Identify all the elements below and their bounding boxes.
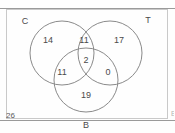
set-label-b: B (83, 120, 89, 130)
region-value-c-only: 14 (43, 35, 53, 45)
venn-figure: C T B 14 11 17 2 11 0 19 26 E (0, 0, 175, 133)
region-value-b-only: 19 (81, 90, 91, 100)
region-value-c-and-t: 11 (79, 35, 88, 45)
right-edge-mark: E (171, 109, 174, 118)
outside-region-count: 26 (6, 111, 15, 121)
region-value-c-t-b: 2 (83, 55, 88, 65)
set-label-c: C (22, 16, 29, 26)
region-value-t-and-b: 0 (105, 67, 110, 77)
set-label-t: T (145, 15, 151, 25)
region-value-t-only: 17 (114, 35, 124, 45)
venn-canvas: C T B 14 11 17 2 11 0 19 (0, 0, 175, 133)
region-value-c-and-b: 11 (57, 67, 66, 77)
